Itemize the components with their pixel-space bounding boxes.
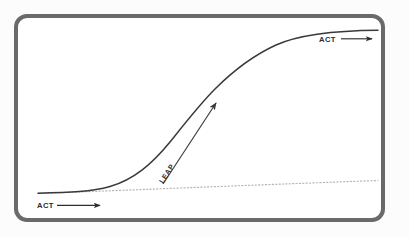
leap-s-curve-diagram: ACT LEAP ACT bbox=[0, 0, 409, 238]
diagram-canvas: ACT LEAP ACT bbox=[0, 0, 409, 238]
act-start-label: ACT bbox=[37, 201, 54, 210]
inner-canvas bbox=[18, 18, 381, 218]
act-end-label: ACT bbox=[319, 35, 336, 44]
